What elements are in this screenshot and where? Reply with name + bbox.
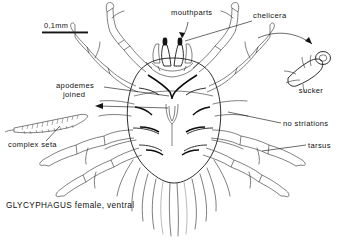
chelicera-right-tip	[178, 38, 183, 45]
scale-bar-label: 0,1mm	[44, 21, 68, 30]
chelicera-left-tip	[163, 38, 168, 45]
figure-caption: GLYCYPHAGUS female, ventral	[6, 201, 135, 210]
label-sucker: sucker	[299, 86, 324, 95]
label-mouthparts: mouthparts	[171, 8, 213, 17]
label-tarsus: tarsus	[308, 141, 331, 150]
label-complex-seta: complex seta	[8, 140, 57, 149]
glycyphagus-figure: 0,1mm	[0, 0, 344, 243]
label-joined: joined	[62, 90, 85, 99]
label-no-striations: no striations	[283, 119, 329, 128]
scale-bar-line	[42, 32, 88, 34]
label-apodemes: apodemes	[56, 81, 94, 90]
label-chelicera: chelicera	[253, 11, 287, 20]
